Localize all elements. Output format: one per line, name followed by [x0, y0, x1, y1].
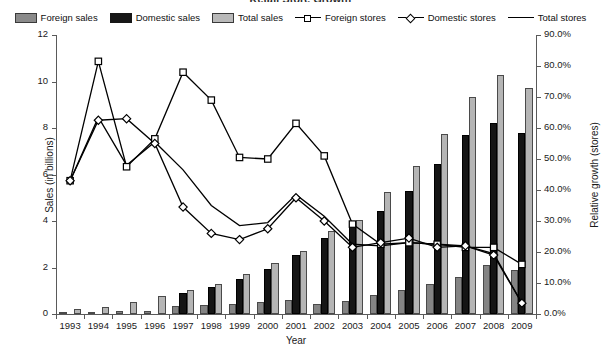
x-axis-tick-label: 1999	[225, 320, 253, 331]
y-axis-right-tick	[537, 252, 541, 253]
y-axis-right-tick-label: 70.0%	[544, 90, 571, 101]
x-axis-tick-label: 2006	[423, 320, 451, 331]
x-axis-tick	[254, 315, 255, 319]
line-plain	[508, 13, 534, 23]
x-axis-tick	[56, 315, 57, 319]
x-axis-title: Year	[56, 335, 536, 346]
x-axis-tick-label: 2008	[480, 320, 508, 331]
x-axis-tick	[423, 315, 424, 319]
x-axis-tick	[225, 315, 226, 319]
x-axis-tick-label: 1996	[141, 320, 169, 331]
marker-square-2003[interactable]	[349, 221, 355, 227]
x-axis-tick	[480, 315, 481, 319]
x-axis-line	[56, 314, 537, 315]
x-axis-tick	[451, 315, 452, 319]
legend-item-foreign-stores[interactable]: Foreign stores	[295, 12, 386, 23]
y-axis-right-tick	[537, 159, 541, 160]
x-axis-tick-label: 2009	[508, 320, 536, 331]
x-axis-tick-label: 2007	[451, 320, 479, 331]
legend-item-foreign-sales[interactable]: Foreign sales	[15, 12, 98, 23]
legend-label: Foreign sales	[41, 12, 98, 23]
y-axis-right-tick-label: 60.0%	[544, 121, 571, 132]
line-foreign-stores	[70, 61, 522, 264]
x-axis-tick	[367, 315, 368, 319]
marker-square-2008[interactable]	[490, 244, 496, 250]
x-axis-tick	[282, 315, 283, 319]
marker-diamond-2009[interactable]	[518, 299, 526, 307]
x-axis-tick-label: 2005	[395, 320, 423, 331]
legend-label: Domestic stores	[428, 12, 496, 23]
x-axis-tick-label: 2000	[254, 320, 282, 331]
y-axis-left-tick-label: 12	[37, 28, 48, 39]
y-axis-left-tick-label: 2	[43, 261, 48, 272]
legend-item-total-sales[interactable]: Total sales	[212, 12, 283, 23]
x-axis-tick	[84, 315, 85, 319]
x-axis-tick	[395, 315, 396, 319]
y-axis-right-tick	[537, 283, 541, 284]
x-axis-tick-label: 1997	[169, 320, 197, 331]
marker-diamond-1999[interactable]	[235, 236, 243, 244]
x-axis-tick	[112, 315, 113, 319]
bar-swatch-foreign	[15, 13, 37, 23]
y-axis-left-tick-label: 10	[37, 75, 48, 86]
y-axis-right-title: Relative growth (stores)	[589, 122, 600, 228]
bar-swatch-total	[212, 13, 234, 23]
marker-square-2000[interactable]	[265, 156, 271, 162]
legend-label: Domestic sales	[136, 12, 200, 23]
y-axis-right-tick	[537, 35, 541, 36]
y-axis-right-tick-label: 80.0%	[544, 59, 571, 70]
legend-item-domestic-stores[interactable]: Domestic stores	[398, 12, 496, 23]
y-axis-right-tick-label: 10.0%	[544, 276, 571, 287]
line-square-marker	[295, 13, 321, 23]
line-domestic-stores	[70, 119, 522, 303]
legend-label: Foreign stores	[325, 12, 386, 23]
marker-square-1998[interactable]	[208, 97, 214, 103]
marker-square-2009[interactable]	[519, 261, 525, 267]
y-axis-left-tick-label: 8	[43, 121, 48, 132]
y-axis-right-tick	[537, 314, 541, 315]
y-axis-right-tick-label: 0.0%	[544, 307, 566, 318]
chart-title: Retail Store Growth	[0, 0, 601, 2]
legend-item-total-stores[interactable]: Total stores	[508, 12, 587, 23]
x-axis-tick	[197, 315, 198, 319]
legend-label: Total sales	[238, 12, 283, 23]
x-axis-tick-label: 2004	[367, 320, 395, 331]
marker-square-1997[interactable]	[180, 69, 186, 75]
marker-square-1994[interactable]	[95, 58, 101, 64]
y-axis-right-tick-label: 50.0%	[544, 152, 571, 163]
x-axis-tick-label: 1993	[56, 320, 84, 331]
y-axis-right-tick	[537, 221, 541, 222]
y-axis-right-tick	[537, 66, 541, 67]
marker-square-2002[interactable]	[321, 153, 327, 159]
line-total-stores	[70, 117, 522, 303]
y-axis-right-tick	[537, 97, 541, 98]
marker-square-1995[interactable]	[123, 164, 129, 170]
x-axis-tick	[508, 315, 509, 319]
x-axis-tick	[536, 315, 537, 319]
x-axis-tick	[141, 315, 142, 319]
y-axis-right-tick	[537, 128, 541, 129]
marker-square-1999[interactable]	[236, 154, 242, 160]
y-axis-left-tick-label: 4	[43, 214, 48, 225]
legend-label: Total stores	[538, 12, 587, 23]
x-axis-tick-label: 1995	[112, 320, 140, 331]
x-axis-tick	[338, 315, 339, 319]
x-axis-tick-label: 2003	[338, 320, 366, 331]
legend-item-domestic-sales[interactable]: Domestic sales	[110, 12, 200, 23]
y-axis-right-line	[536, 35, 537, 314]
x-axis-tick-label: 2002	[310, 320, 338, 331]
y-axis-right-tick-label: 20.0%	[544, 245, 571, 256]
y-axis-right-tick-label: 90.0%	[544, 28, 571, 39]
y-axis-left-title: Sales (in billions)	[44, 137, 55, 213]
y-axis-right-tick-label: 40.0%	[544, 183, 571, 194]
x-axis-tick-label: 1998	[197, 320, 225, 331]
chart-canvas: Retail Store Growth Foreign salesDomesti…	[0, 0, 601, 360]
y-axis-left-tick-label: 0	[43, 307, 48, 318]
x-axis-tick-label: 1994	[84, 320, 112, 331]
chart-legend: Foreign salesDomestic salesTotal salesFo…	[0, 12, 601, 23]
marker-square-2001[interactable]	[293, 120, 299, 126]
x-axis-tick	[169, 315, 170, 319]
y-axis-right-tick-label: 30.0%	[544, 214, 571, 225]
x-axis-tick-label: 2001	[282, 320, 310, 331]
x-axis-tick	[310, 315, 311, 319]
